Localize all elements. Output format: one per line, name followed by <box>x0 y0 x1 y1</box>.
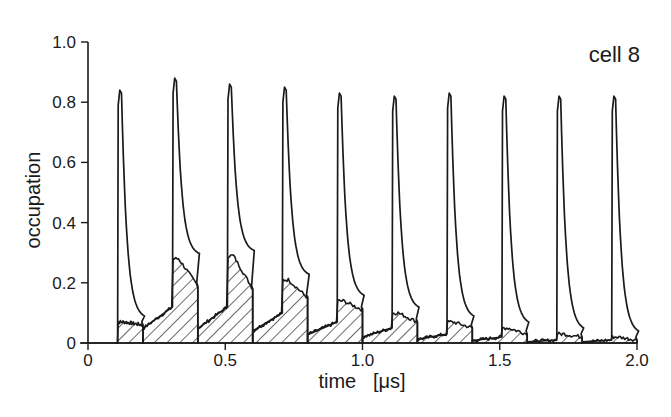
x-tick-label: 0.5 <box>213 351 237 370</box>
x-axis-title: time [μs] <box>318 370 405 392</box>
hatched-segment <box>363 312 418 343</box>
y-tick-label: 0.6 <box>52 153 76 172</box>
total-occupation-line <box>88 78 639 343</box>
y-tick-label: 0 <box>67 334 76 353</box>
x-tick-label: 1.0 <box>351 351 375 370</box>
cell-annotation: cell 8 <box>589 42 640 67</box>
hatched-segment <box>417 320 472 343</box>
hatched-segment <box>198 255 253 343</box>
occupation-chart: 00.20.40.60.81.0 00.51.01.52.0 time [μs]… <box>0 0 671 417</box>
hatched-segment <box>115 321 142 343</box>
y-tick-label: 0.4 <box>52 214 76 233</box>
y-tick-label: 0.2 <box>52 274 76 293</box>
x-tick-label: 2.0 <box>625 351 649 370</box>
hatched-area-series <box>115 255 637 343</box>
hatched-segment <box>253 278 308 343</box>
occupation-line <box>88 78 639 343</box>
hatched-segment <box>472 328 527 344</box>
x-ticks: 00.51.01.52.0 <box>83 343 649 370</box>
hatched-segment <box>143 258 198 344</box>
x-tick-label: 1.5 <box>488 351 512 370</box>
hatched-segment <box>308 300 363 344</box>
y-ticks: 00.20.40.60.81.0 <box>52 33 88 353</box>
y-tick-label: 1.0 <box>52 33 76 52</box>
y-tick-label: 0.8 <box>52 93 76 112</box>
x-tick-label: 0 <box>83 351 92 370</box>
y-axis-title: occupation <box>22 152 44 249</box>
